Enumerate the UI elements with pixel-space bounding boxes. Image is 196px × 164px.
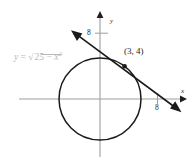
y-axis-tick-label-8: 8 — [87, 29, 91, 37]
radical-vinculum — [41, 54, 62, 55]
y-axis-arrowhead — [97, 11, 104, 18]
tangency-point-dot — [122, 64, 127, 69]
y-axis-label: y — [110, 18, 113, 25]
figure-canvas — [0, 0, 196, 164]
tangent-line-arrowhead-upper — [71, 30, 82, 41]
tangent-line-arrowhead-lower — [170, 101, 182, 112]
radicand-group: 25 − x2 — [34, 53, 62, 63]
math-figure-circle-tangent: y x 8 8 (3, 4) y = √25 − x2 — [0, 0, 196, 164]
tangent-line — [76, 34, 177, 108]
x-axis-label: x — [181, 88, 184, 95]
tangency-point-label: (3, 4) — [124, 47, 144, 56]
equation-label: y = √25 − x2 — [14, 53, 62, 63]
x-axis-tick-label-8: 8 — [155, 104, 159, 112]
x-axis-arrowhead — [180, 96, 187, 103]
